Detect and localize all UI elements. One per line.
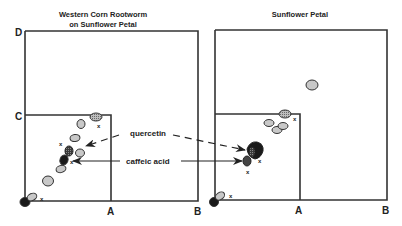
left-label-d: D [15,27,22,38]
chromatogram-diagram: Western Corn Rootworm on Sunflower Petal… [0,0,402,226]
spot [43,176,54,186]
spot-top [90,113,102,121]
arrow-quercetin-left [86,135,119,146]
spot-x-mark: x [70,159,74,165]
left-label-c: C [15,111,22,122]
left-label-b: B [194,206,201,217]
spot-x-mark: x [59,141,63,147]
spot-quercetin [65,146,73,156]
spot [69,134,80,143]
spot-caffeic-acid-right [243,156,251,166]
annotations: quercetin caffeic acid [73,129,245,166]
spot [278,123,288,130]
left-label-a: A [107,206,114,217]
spot-cluster-mid [249,147,255,157]
right-panel: Sunflower Petal A B x x x x [210,10,390,216]
right-label-b: B [382,205,389,216]
spot-isolated [306,80,318,90]
spot [77,120,85,129]
right-label-a: A [295,205,302,216]
right-title: Sunflower Petal [272,10,328,19]
spot [55,164,66,173]
spot-x-mark: x [258,158,262,164]
spot [264,120,274,127]
spot-top [279,110,291,118]
left-title-line2: on Sunflower Petal [69,20,137,29]
spot-x-mark: x [246,169,250,175]
spot-x-mark: x [293,116,297,122]
spot-x-mark: x [229,193,233,199]
arrow-quercetin-right [173,135,245,150]
left-title-line1: Western Corn Rootworm [59,10,148,19]
spot [76,149,85,157]
label-caffeic-acid: caffeic acid [126,157,170,166]
left-panel: Western Corn Rootworm on Sunflower Petal… [15,10,201,217]
label-quercetin: quercetin [130,129,166,138]
spot-x-mark: x [97,123,101,129]
right-outer-frame [215,30,387,200]
